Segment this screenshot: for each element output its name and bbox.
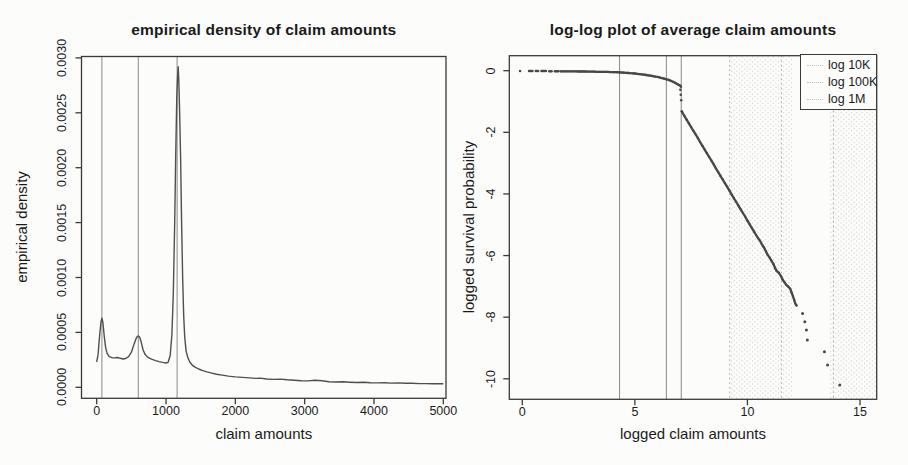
y-tick-label: -6 [484, 250, 498, 261]
left-yaxis-label: empirical density [13, 171, 30, 283]
y-tick-label: -2 [484, 127, 498, 138]
legend-row: log 1M [807, 92, 872, 107]
y-tick-label: 0.0005 [55, 313, 69, 351]
legend-label: log 1M [828, 92, 866, 106]
y-tick-label: 0.0010 [55, 258, 69, 296]
x-tick-label: 4000 [360, 404, 388, 418]
right-yaxis-label: logged survival probability [460, 141, 477, 314]
y-tick-label: -4 [484, 188, 498, 199]
legend-row: log 10K [807, 58, 872, 73]
x-tick-label: 0 [519, 405, 526, 419]
dotted-line-sample-icon [807, 99, 823, 100]
legend-row: log 100K [807, 75, 872, 90]
x-tick-label: 5000 [429, 404, 457, 418]
y-tick-label: 0 [484, 67, 498, 74]
plots-canvas [0, 0, 908, 465]
dotted-line-sample-icon [807, 65, 823, 66]
x-tick-label: 5 [631, 405, 638, 419]
figure: empirical density of claim amounts log-l… [0, 0, 908, 465]
legend-label: log 10K [828, 58, 870, 72]
dotted-line-sample-icon [807, 82, 823, 83]
y-tick-label: 0.0025 [55, 94, 69, 132]
y-tick-label: 0.0030 [55, 39, 69, 77]
x-tick-label: 2000 [221, 404, 249, 418]
x-tick-label: 3000 [291, 404, 319, 418]
x-tick-label: 1000 [152, 404, 180, 418]
right-xaxis-label: logged claim amounts [620, 425, 766, 442]
legend: log 10K log 100K log 1M [800, 54, 877, 110]
legend-label: log 100K [828, 75, 877, 89]
right-chart-title: log-log plot of average claim amounts [550, 21, 836, 39]
y-tick-label: 0.0000 [55, 368, 69, 406]
y-tick-label: -8 [484, 312, 498, 323]
y-tick-label: 0.0020 [55, 149, 69, 187]
left-xaxis-label: claim amounts [215, 425, 312, 442]
x-tick-label: 15 [853, 405, 867, 419]
y-tick-label: -10 [484, 370, 498, 388]
y-tick-label: 0.0015 [55, 203, 69, 241]
x-tick-label: 10 [740, 405, 754, 419]
density-curve [97, 67, 444, 384]
left-chart-title: empirical density of claim amounts [131, 21, 396, 39]
x-tick-label: 0 [93, 404, 100, 418]
